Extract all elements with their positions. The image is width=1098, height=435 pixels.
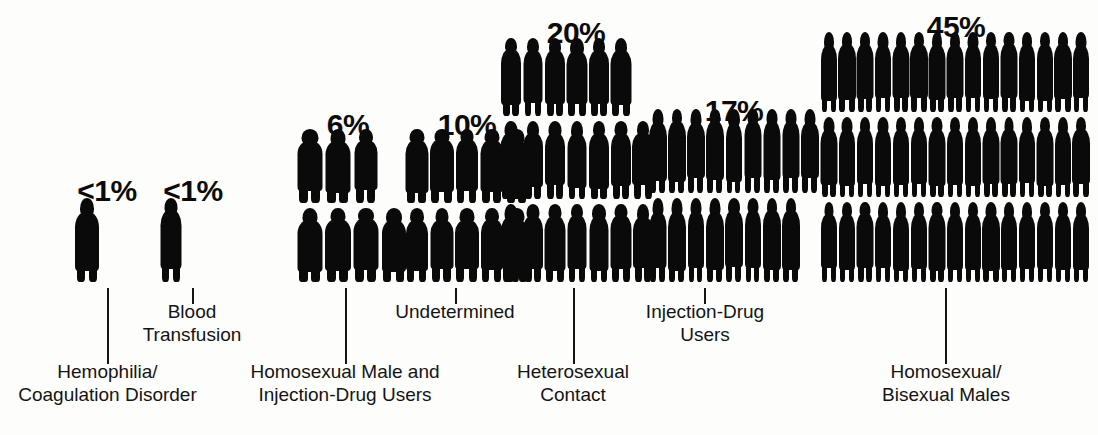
- person-leg-right: [513, 186, 520, 199]
- person-icon: [1054, 117, 1072, 197]
- person-leg-left: [689, 266, 694, 282]
- figure-rows-injection-drug-users: [648, 109, 820, 282]
- person-leg-left: [983, 269, 989, 282]
- person-leg-right: [339, 269, 348, 282]
- person-leg-right: [1046, 184, 1052, 197]
- person-torso: [706, 212, 724, 270]
- person-torso: [893, 45, 910, 98]
- person-icon: [588, 121, 610, 199]
- person-leg-right: [754, 266, 759, 282]
- person-icon: [724, 198, 743, 282]
- person-icon: [781, 109, 800, 193]
- person-torso: [929, 213, 946, 271]
- person-torso: [839, 129, 855, 186]
- person-torso: [982, 214, 1000, 271]
- caption-homosexual-male-and-idu: Homosexual Male and Injection-Drug Users: [238, 360, 452, 406]
- person-icon: [874, 202, 892, 282]
- person-leg-left: [612, 103, 619, 116]
- person-leg-left: [327, 269, 336, 282]
- person-leg-right: [623, 267, 630, 282]
- person-torso: [782, 210, 800, 270]
- person-leg-right: [866, 266, 872, 282]
- person-torso: [1019, 44, 1035, 101]
- person-icon: [856, 202, 874, 282]
- person-leg-right: [735, 265, 741, 282]
- group-injection-drug-users: 17%: [648, 96, 820, 282]
- figure-rows-hemophilia: [74, 198, 140, 282]
- person-leg-left: [355, 268, 364, 282]
- person-leg-right: [773, 268, 779, 282]
- person-icon: [544, 121, 566, 199]
- person-icon: [566, 121, 588, 199]
- person-leg-left: [783, 176, 789, 193]
- person-leg-left: [383, 270, 391, 282]
- person-icon: [522, 204, 544, 282]
- person-torso: [1072, 129, 1090, 184]
- person-icon: [352, 129, 379, 203]
- person-leg-right: [1010, 96, 1016, 112]
- person-icon: [454, 208, 479, 282]
- person-icon: [1000, 202, 1018, 282]
- person-torso: [455, 220, 479, 269]
- person-icon: [544, 38, 566, 116]
- person-icon: [964, 117, 982, 197]
- person-icon: [910, 202, 928, 282]
- figure-rows-blood-transfusion: [160, 198, 226, 282]
- person-leg-left: [327, 191, 336, 203]
- person-leg-right: [367, 188, 375, 203]
- person-icon: [404, 129, 429, 203]
- person-torso: [821, 214, 837, 268]
- person-torso: [910, 44, 928, 98]
- person-leg-left: [688, 176, 694, 193]
- person-leg-right: [444, 190, 452, 203]
- person-leg-left: [894, 96, 900, 112]
- person-icon: [892, 32, 910, 112]
- person-icon: [686, 198, 705, 282]
- person-torso: [706, 121, 724, 180]
- person-leg-left: [162, 267, 169, 282]
- person-leg-left: [432, 267, 440, 282]
- person-leg-left: [876, 266, 881, 282]
- person-leg-left: [930, 184, 936, 197]
- caption-hemophilia: Hemophilia/ Coagulation Disorder: [5, 360, 210, 406]
- caption-heterosexual-contact: Heterosexual Contact: [498, 360, 648, 406]
- person-torso: [947, 45, 964, 98]
- person-leg-right: [735, 180, 740, 193]
- person-leg-right: [1083, 268, 1088, 282]
- person-leg-left: [1038, 267, 1043, 282]
- person-leg-left: [966, 268, 971, 282]
- person-leg-right: [1047, 267, 1052, 282]
- person-icon: [892, 202, 910, 282]
- person-torso: [523, 216, 543, 269]
- person-icon: [324, 208, 351, 282]
- person-torso: [821, 45, 837, 101]
- person-icon: [838, 202, 856, 282]
- person-leg-right: [885, 184, 890, 197]
- person-icon: [404, 208, 429, 282]
- person-leg-left: [839, 98, 845, 112]
- person-icon: [500, 121, 522, 199]
- person-leg-left: [1038, 99, 1043, 112]
- person-leg-right: [579, 267, 585, 282]
- person-torso: [983, 44, 999, 99]
- person-leg-left: [822, 266, 827, 282]
- person-leg-left: [912, 182, 917, 197]
- person-torso: [1019, 215, 1035, 269]
- person-leg-left: [858, 97, 864, 112]
- person-leg-right: [831, 99, 836, 112]
- person-leg-left: [591, 269, 597, 282]
- person-torso: [297, 141, 322, 191]
- person-torso: [1055, 214, 1071, 270]
- person-icon: [946, 117, 964, 197]
- person-leg-left: [1056, 183, 1061, 197]
- person-leg-left: [1002, 96, 1008, 112]
- person-leg-left: [840, 268, 845, 282]
- person-leg-right: [89, 269, 97, 282]
- person-leg-left: [356, 188, 364, 203]
- person-torso: [611, 215, 632, 269]
- person-icon: [838, 117, 856, 197]
- figure-rows-homosexual-bisexual-males: [820, 32, 1092, 282]
- person-torso: [929, 45, 946, 100]
- person-leg-left: [431, 190, 439, 203]
- person-leg-left: [1020, 267, 1025, 282]
